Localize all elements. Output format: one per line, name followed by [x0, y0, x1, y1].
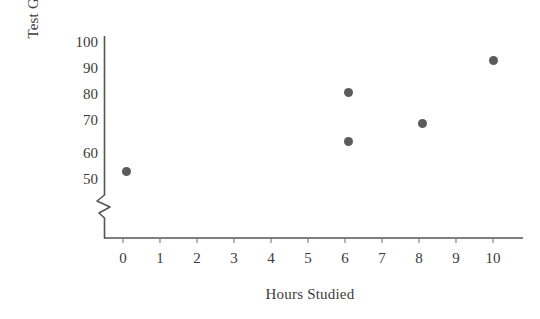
x-tick-label: 0	[106, 251, 140, 266]
y-axis-title: Test Grade	[22, 0, 44, 70]
x-tick-label: 8	[402, 251, 436, 266]
x-axis-title: Hours Studied	[160, 286, 460, 303]
y-tick-label: 60	[52, 146, 98, 161]
x-tick-label: 6	[328, 251, 362, 266]
x-tick-label: 1	[143, 251, 177, 266]
y-tick-label: 50	[52, 172, 98, 187]
y-tick-label: 80	[52, 87, 98, 102]
y-tick-label: 90	[52, 61, 98, 76]
x-tick-label: 9	[439, 251, 473, 266]
scatter-chart: Test Grade Hours Studied 100 90 80 70 60…	[0, 0, 540, 319]
x-tick-label: 3	[217, 251, 251, 266]
data-point	[489, 56, 498, 65]
x-tick-label: 7	[365, 251, 399, 266]
x-tick-label: 10	[476, 251, 510, 266]
x-tick-label: 4	[254, 251, 288, 266]
x-tick-label: 5	[291, 251, 325, 266]
y-tick-label: 100	[52, 35, 98, 50]
axis-break-zigzag	[97, 195, 110, 218]
data-point	[344, 88, 353, 97]
x-tick-label: 2	[180, 251, 214, 266]
y-tick-label: 70	[52, 113, 98, 128]
